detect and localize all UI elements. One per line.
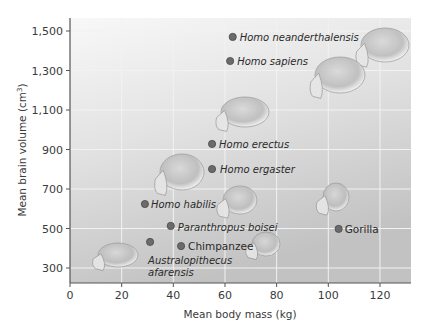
point-label: Homo habilis bbox=[151, 199, 216, 210]
y-tick-label: 1,500 bbox=[32, 25, 64, 38]
x-axis-title: Mean body mass (kg) bbox=[183, 308, 296, 320]
y-tick-label: 1,100 bbox=[32, 104, 64, 117]
x-tick-label: 20 bbox=[115, 289, 129, 302]
x-tick-label: 40 bbox=[166, 289, 180, 302]
data-point: Homo habilis bbox=[141, 199, 216, 210]
point-marker bbox=[335, 225, 342, 232]
data-point: Homo ergaster bbox=[208, 164, 295, 175]
data-point: Homo neanderthalensis bbox=[229, 32, 359, 43]
point-marker bbox=[208, 140, 215, 147]
data-point: Homo erectus bbox=[208, 139, 289, 150]
point-marker bbox=[229, 33, 236, 40]
point-marker bbox=[227, 57, 234, 64]
point-marker bbox=[141, 200, 148, 207]
point-label: Homo ergaster bbox=[220, 164, 296, 175]
x-tick-label: 120 bbox=[369, 289, 390, 302]
point-label: Chimpanzee bbox=[188, 240, 253, 252]
point-label: Gorilla bbox=[345, 223, 379, 235]
point-label: Homo neanderthalensis bbox=[240, 32, 359, 43]
y-axis-title: Mean brain volume (cm3) bbox=[16, 83, 28, 216]
point-marker bbox=[167, 222, 174, 229]
point-label: Paranthropus boisei bbox=[178, 222, 278, 233]
data-point: Paranthropus boisei bbox=[167, 222, 278, 233]
point-label: afarensis bbox=[148, 267, 194, 278]
data-point: Homo sapiens bbox=[227, 56, 308, 67]
y-tick-label: 300 bbox=[42, 262, 63, 275]
data-point: Chimpanzee bbox=[177, 240, 253, 252]
point-marker bbox=[208, 165, 215, 172]
y-tick-label: 1,300 bbox=[32, 65, 64, 78]
x-tick-label: 100 bbox=[318, 289, 339, 302]
x-tick-label: 80 bbox=[270, 289, 284, 302]
point-label: Homo sapiens bbox=[237, 56, 308, 67]
y-tick-label: 700 bbox=[42, 183, 63, 196]
y-tick-label: 900 bbox=[42, 144, 63, 157]
point-marker bbox=[177, 242, 184, 249]
y-tick-label: 500 bbox=[42, 223, 63, 236]
point-marker bbox=[146, 238, 153, 245]
x-tick-label: 0 bbox=[67, 289, 74, 302]
x-tick-label: 60 bbox=[218, 289, 232, 302]
brain-volume-scatter-chart: 0204060801001203005007009001,1001,3001,5… bbox=[0, 0, 422, 331]
point-label: Homo erectus bbox=[219, 139, 289, 150]
point-label: Australopithecus bbox=[147, 255, 232, 266]
